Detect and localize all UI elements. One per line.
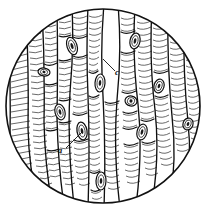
figure-root: a c	[0, 0, 207, 212]
nucleus	[96, 172, 107, 190]
micrograph-illustration: a c	[0, 0, 207, 212]
label-c: c	[115, 67, 119, 77]
label-a: a	[58, 145, 63, 155]
